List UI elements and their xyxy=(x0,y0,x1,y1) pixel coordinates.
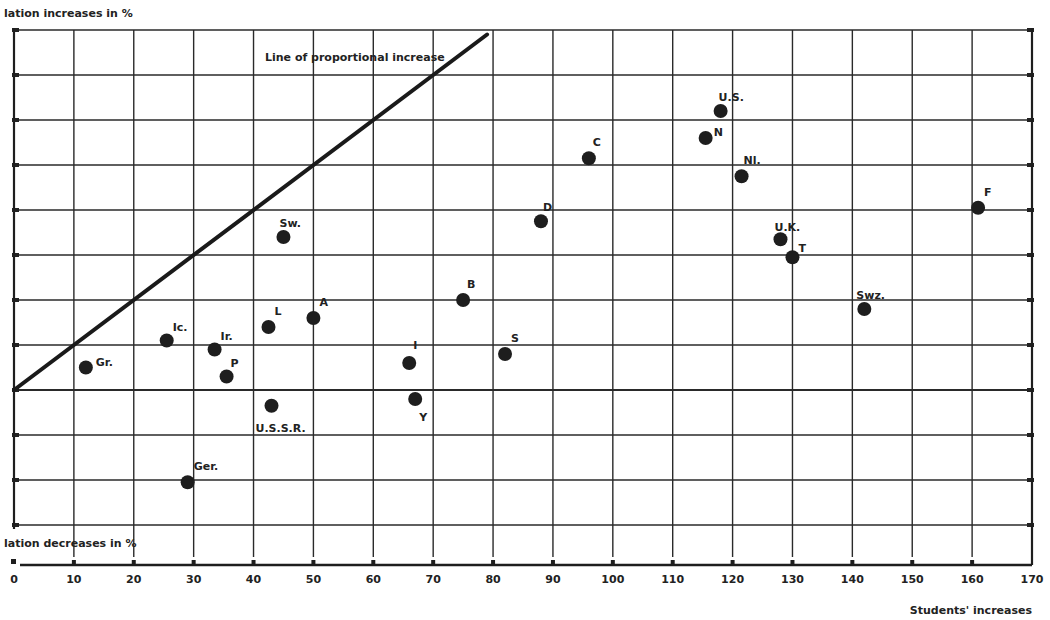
x-tick-label: 90 xyxy=(545,573,561,586)
data-point: Ir. xyxy=(208,330,233,357)
x-tick-label: 120 xyxy=(721,573,744,586)
y-axis-label-top: lation increases in % xyxy=(4,7,133,20)
x-axis-label: Students' increases xyxy=(910,604,1033,617)
x-tick-label: 40 xyxy=(246,573,262,586)
point-label: N xyxy=(714,126,723,139)
x-tick-label: 100 xyxy=(601,573,624,586)
point-label: B xyxy=(467,278,475,291)
y-axis-label-bottom: lation decreases in % xyxy=(4,537,136,550)
x-tick-label: 0 xyxy=(10,573,18,586)
x-tick-label: 30 xyxy=(186,573,202,586)
point-label: D xyxy=(543,201,552,214)
point-label: Ir. xyxy=(221,330,233,343)
data-points: Gr.Ic.Ir.PLASw.U.S.S.R.Ger.IYBSDCU.S.NNl… xyxy=(79,91,992,489)
data-point: Gr. xyxy=(79,356,113,375)
point-label: I xyxy=(413,339,417,352)
x-tick-label: 70 xyxy=(426,573,442,586)
point-label: U.S.S.R. xyxy=(255,422,305,435)
point-label: Swz. xyxy=(856,289,885,302)
data-point: Y xyxy=(408,392,428,424)
point-label: Sw. xyxy=(279,217,301,230)
data-point: Nl. xyxy=(735,154,761,183)
point-label: Ger. xyxy=(194,460,219,473)
data-point: Swz. xyxy=(856,289,885,316)
point-label: P xyxy=(231,357,239,370)
data-point: Ic. xyxy=(160,321,188,348)
data-point: S xyxy=(498,332,519,361)
point-label: L xyxy=(275,305,282,318)
data-point: Ger. xyxy=(181,460,219,489)
x-tick-label: 20 xyxy=(126,573,142,586)
data-point: C xyxy=(582,136,601,165)
data-point: L xyxy=(262,305,282,334)
data-point: B xyxy=(456,278,475,307)
data-point: I xyxy=(402,339,417,370)
data-point: T xyxy=(785,242,806,264)
point-label: C xyxy=(593,136,601,149)
point-label: U.S. xyxy=(719,91,744,104)
data-point: Sw. xyxy=(276,217,301,244)
point-label: Gr. xyxy=(96,356,113,369)
x-tick-label: 140 xyxy=(841,573,864,586)
point-label: S xyxy=(511,332,519,345)
scatter-chart: Gr.Ic.Ir.PLASw.U.S.S.R.Ger.IYBSDCU.S.NNl… xyxy=(0,0,1050,620)
x-tick-label: 80 xyxy=(485,573,501,586)
x-tick-label: 110 xyxy=(661,573,684,586)
proportional-line xyxy=(14,35,487,391)
data-point: D xyxy=(534,201,552,228)
x-tick-label: 60 xyxy=(366,573,382,586)
x-tick-labels: 0102030405060708090100110120130140150160… xyxy=(10,573,1044,586)
data-point: U.S.S.R. xyxy=(255,399,305,435)
x-tick-label: 170 xyxy=(1021,573,1044,586)
point-label: Ic. xyxy=(173,321,188,334)
point-label: Y xyxy=(418,411,428,424)
point-label: Nl. xyxy=(744,154,761,167)
point-label: F xyxy=(984,186,992,199)
data-point: N xyxy=(699,126,723,145)
x-tick-label: 160 xyxy=(961,573,984,586)
data-point: U.K. xyxy=(773,221,800,246)
point-label: A xyxy=(319,296,328,309)
x-tick-label: 130 xyxy=(781,573,804,586)
point-label: T xyxy=(798,242,806,255)
data-point: U.S. xyxy=(714,91,744,118)
point-label: U.K. xyxy=(774,221,800,234)
x-tick-label: 50 xyxy=(306,573,322,586)
x-tick-label: 150 xyxy=(901,573,924,586)
x-tick-label: 10 xyxy=(66,573,82,586)
proportional-line-label: Line of proportional increase xyxy=(265,51,445,64)
data-point: P xyxy=(220,357,239,384)
